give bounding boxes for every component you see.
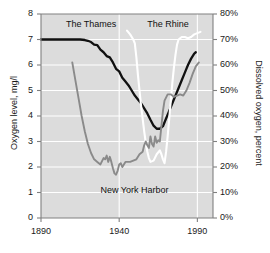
series-label-the-thames: The Thames — [66, 19, 116, 29]
y-axis-right-tick-label: 0% — [220, 212, 250, 222]
y-axis-left-tick-label: 7 — [7, 34, 33, 44]
oxygen-level-chart: Oxygen level, mg/l Dissolved oxygen, per… — [0, 0, 270, 253]
y-axis-left-tick-label: 3 — [7, 136, 33, 146]
y-axis-right-tick-label: 20% — [220, 161, 250, 171]
y-axis-right-tick-label: 60% — [220, 59, 250, 69]
y-axis-right-tick-label: 30% — [220, 136, 250, 146]
y-axis-left-tick-label: 2 — [7, 161, 33, 171]
y-axis-right-tick-label: 70% — [220, 34, 250, 44]
y-axis-right-tick-label: 40% — [220, 110, 250, 120]
x-axis-tick-label: 1990 — [177, 226, 217, 236]
y-axis-right-tick-label: 10% — [220, 187, 250, 197]
y-axis-left-tick-label: 5 — [7, 85, 33, 95]
y-axis-left-tick-label: 6 — [7, 59, 33, 69]
series-label-the-rhine: The Rhine — [147, 19, 189, 29]
y-axis-left-tick-label: 1 — [7, 187, 33, 197]
y-axis-right-tick-label: 80% — [220, 8, 250, 18]
y-axis-left-tick-label: 8 — [7, 8, 33, 18]
y-axis-right-title: Dissolved oxygen, percent — [254, 48, 264, 178]
series-label-new-york-harbor: New York Harbor — [100, 185, 168, 195]
x-axis-tick-label: 1940 — [99, 226, 139, 236]
y-axis-right-tick-label: 50% — [220, 85, 250, 95]
y-axis-left-tick-label: 4 — [7, 110, 33, 120]
y-axis-left-tick-label: 0 — [7, 212, 33, 222]
x-axis-tick-label: 1890 — [21, 226, 61, 236]
